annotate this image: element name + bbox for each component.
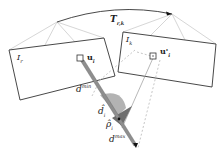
transform-label: Tr,k (110, 15, 124, 26)
depth-inv-label: ρ̂i (106, 120, 113, 131)
depth-est-label: d̂i (98, 107, 105, 118)
pixel-ref-label: ui (87, 53, 95, 64)
depth-max-label: dmax (109, 134, 125, 144)
pixel-key-label: u'i (160, 47, 170, 58)
keyframe-label: Ik (126, 36, 132, 46)
reference-frame-label: Ir (17, 54, 23, 64)
keyframe-image-plane (118, 32, 216, 87)
depth-min-label: dmin (76, 84, 91, 94)
pixel-ref-box (77, 55, 83, 61)
depth-estimate-point (118, 118, 121, 121)
